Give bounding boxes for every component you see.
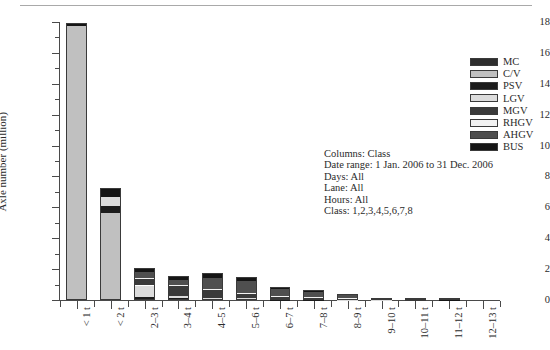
annotation-line: Days: All: [324, 171, 493, 182]
bar-1-t[interactable]: [66, 23, 87, 300]
bar-segment-AHGV: [270, 289, 291, 295]
y-tick-minor: [55, 130, 60, 131]
bar-segment-PSV: [168, 298, 189, 300]
y-tick-label: 12: [502, 110, 550, 120]
bar-segment-PSV: [202, 299, 223, 300]
bar-segment-BUS: [270, 287, 291, 289]
x-tick-major: [246, 301, 247, 309]
bar-5-6-t[interactable]: [236, 277, 257, 300]
y-tick-label: 4: [502, 233, 550, 243]
y-tick-major: [52, 84, 60, 85]
x-tick-major: [449, 301, 450, 309]
y-tick-minor: [55, 37, 60, 38]
legend-swatch-icon: [470, 58, 498, 66]
y-tick-major: [52, 22, 60, 23]
bar-segment-MGV: [236, 293, 257, 298]
y-tick-label: 2: [502, 264, 550, 274]
bar-9-10-t[interactable]: [371, 298, 392, 300]
x-tick-major: [111, 301, 112, 309]
x-tick-minor: [94, 301, 95, 307]
legend-item-AHGV[interactable]: AHGV: [470, 129, 533, 141]
y-tick-label: 8: [502, 171, 550, 181]
x-tick-minor: [60, 301, 61, 307]
x-tick-label: 11–12 t: [453, 307, 464, 338]
annotation-line: Hours: All: [324, 194, 493, 205]
bar-segment-LGV: [270, 299, 291, 300]
bar-segment-LGV: [202, 298, 223, 300]
x-tick-minor: [195, 301, 196, 307]
annotation-line: Class: 1,2,3,4,5,6,7,8: [324, 205, 493, 216]
annotation-line: Date range: 1 Jan. 2006 to 31 Dec. 2006: [324, 159, 493, 170]
y-tick-minor: [55, 223, 60, 224]
y-tick-label: 18: [502, 17, 550, 27]
bar-8-9-t[interactable]: [337, 294, 358, 300]
y-tick-minor: [55, 161, 60, 162]
bar-2-3-t[interactable]: [134, 268, 155, 300]
y-tick-minor: [55, 192, 60, 193]
bar-segment-BUS: [168, 276, 189, 280]
bar-segment-LGV: [100, 197, 121, 205]
legend-swatch-icon: [470, 70, 498, 78]
bar-segment-MGV: [270, 296, 291, 299]
chart-legend: MCC/VPSVLGVMGVRHGVAHGVBUS: [470, 56, 533, 154]
y-tick-major: [52, 300, 60, 301]
bar-segment-PSV: [134, 297, 155, 300]
bar-4-5-t[interactable]: [202, 273, 223, 300]
y-tick-minor: [55, 68, 60, 69]
y-tick-label: 10: [502, 141, 550, 151]
bar-segment-RHGV: [134, 278, 155, 280]
bar-segment-MGV: [371, 299, 392, 300]
bar-7-8-t[interactable]: [303, 290, 324, 300]
bar-segment-RHGV: [168, 285, 189, 286]
y-tick-minor: [55, 254, 60, 255]
x-tick-label: 10–11 t: [419, 307, 430, 338]
x-tick-minor: [500, 301, 501, 307]
y-tick-major: [52, 269, 60, 270]
bar-segment-MGV: [168, 286, 189, 295]
x-tick-minor: [398, 301, 399, 307]
x-tick-major: [212, 301, 213, 309]
bar-segment-AHGV: [337, 295, 358, 298]
x-tick-minor: [263, 301, 264, 307]
x-tick-minor: [229, 301, 230, 307]
x-tick-minor: [466, 301, 467, 307]
bar-segment-AHGV: [134, 272, 155, 278]
bar-segment-AHGV: [236, 281, 257, 293]
legend-swatch-icon: [470, 82, 498, 90]
bar-10-11-t[interactable]: [405, 299, 426, 300]
top-divider: [20, 5, 532, 6]
x-tick-label: 6–7 t: [284, 307, 295, 328]
x-tick-label: 8–9 t: [352, 307, 363, 328]
y-tick-major: [52, 115, 60, 116]
bar-3-4-t[interactable]: [168, 276, 189, 300]
bar-2-t[interactable]: [100, 188, 121, 300]
legend-item-LGV[interactable]: LGV: [470, 93, 533, 105]
y-tick-label: 16: [502, 48, 550, 58]
x-tick-label: 12–13 t: [487, 307, 498, 339]
legend-swatch-icon: [470, 119, 498, 127]
bar-segment-PSV: [100, 206, 121, 213]
x-tick-minor: [128, 301, 129, 307]
x-tick-label: 2–3 t: [149, 307, 160, 328]
x-tick-major: [145, 301, 146, 309]
y-tick-major: [52, 238, 60, 239]
bar-segment-LGV: [168, 296, 189, 299]
bar-segment-BUS: [303, 290, 324, 292]
x-tick-major: [382, 301, 383, 309]
bar-segment-BUS: [66, 23, 87, 26]
x-tick-major: [483, 301, 484, 309]
annotation-line: Lane: All: [324, 182, 493, 193]
bar-6-7-t[interactable]: [270, 287, 291, 300]
legend-label: AHGV: [503, 129, 533, 141]
x-tick-minor: [432, 301, 433, 307]
x-tick-label: 3–4 t: [182, 307, 193, 328]
x-tick-minor: [365, 301, 366, 307]
y-tick-label: 0: [502, 295, 550, 305]
y-tick-major: [52, 176, 60, 177]
annotation-line: Columns: Class: [324, 148, 493, 159]
legend-swatch-icon: [470, 131, 498, 139]
y-tick-label: 6: [502, 202, 550, 212]
legend-label: LGV: [503, 93, 525, 105]
x-tick-minor: [297, 301, 298, 307]
x-tick-major: [348, 301, 349, 309]
